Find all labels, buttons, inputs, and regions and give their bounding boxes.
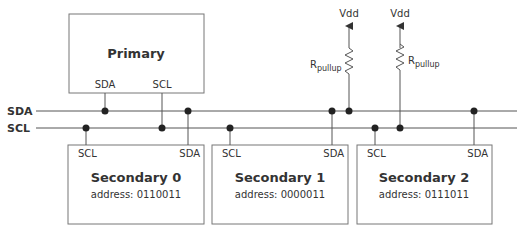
- junction-dot: [346, 108, 353, 115]
- primary-pin-sda: SDA: [95, 79, 116, 90]
- sda-bus-label: SDA: [7, 105, 33, 118]
- primary-device: Primary SDA SCL: [69, 14, 204, 93]
- junction-dot: [471, 108, 478, 115]
- primary-pin-scl: SCL: [153, 79, 172, 90]
- junction-dot: [227, 125, 234, 132]
- junction-dot: [102, 108, 109, 115]
- secondary-0-pin-sda: SDA: [179, 148, 200, 159]
- secondary-1-address: address: 0000011: [235, 189, 325, 200]
- junction-dot: [159, 125, 166, 132]
- secondary-2-device: SCL SDA Secondary 2 address: 0111011: [357, 145, 492, 224]
- secondary-1-pin-scl: SCL: [222, 148, 241, 159]
- pullup-label-1: Rpullup: [310, 59, 342, 73]
- pullup-resistor-scl: Vdd Rpullup: [390, 8, 439, 128]
- resistor-icon: [345, 48, 353, 74]
- secondary-2-title: Secondary 2: [379, 170, 470, 185]
- pullup-resistor-sda: Vdd Rpullup: [310, 8, 359, 111]
- junction-dot: [372, 125, 379, 132]
- scl-bus-label: SCL: [7, 122, 30, 135]
- junction-dot: [185, 108, 192, 115]
- junction-dot: [83, 125, 90, 132]
- secondary-1-device: SCL SDA Secondary 1 address: 0000011: [212, 145, 348, 224]
- secondary-2-pin-sda: SDA: [467, 148, 488, 159]
- secondary-0-pin-scl: SCL: [78, 148, 97, 159]
- secondary-2-address: address: 0111011: [379, 189, 469, 200]
- junction-dot: [397, 125, 404, 132]
- secondary-1-pin-sda: SDA: [323, 148, 344, 159]
- vdd-label-2: Vdd: [390, 8, 410, 19]
- primary-title: Primary: [107, 46, 165, 61]
- i2c-bus-diagram: SDA SCL Primary SDA SCL SCL SDA Secondar…: [0, 0, 527, 233]
- secondary-1-title: Secondary 1: [235, 170, 326, 185]
- vdd-label-1: Vdd: [339, 8, 359, 19]
- pullup-label-2: Rpullup: [408, 55, 440, 69]
- secondary-2-pin-scl: SCL: [367, 148, 386, 159]
- secondary-0-address: address: 0110011: [91, 189, 181, 200]
- secondary-0-title: Secondary 0: [91, 170, 182, 185]
- secondary-0-device: SCL SDA Secondary 0 address: 0110011: [68, 145, 204, 224]
- junction-dot: [329, 108, 336, 115]
